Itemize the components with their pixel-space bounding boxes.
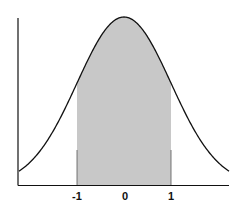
x-tick-0: 0 — [122, 190, 128, 202]
shaded-region — [77, 17, 171, 185]
x-tick-1: 1 — [168, 190, 174, 202]
x-tick-neg1: -1 — [72, 190, 82, 202]
normal-distribution-chart: -1 0 1 — [0, 0, 241, 209]
